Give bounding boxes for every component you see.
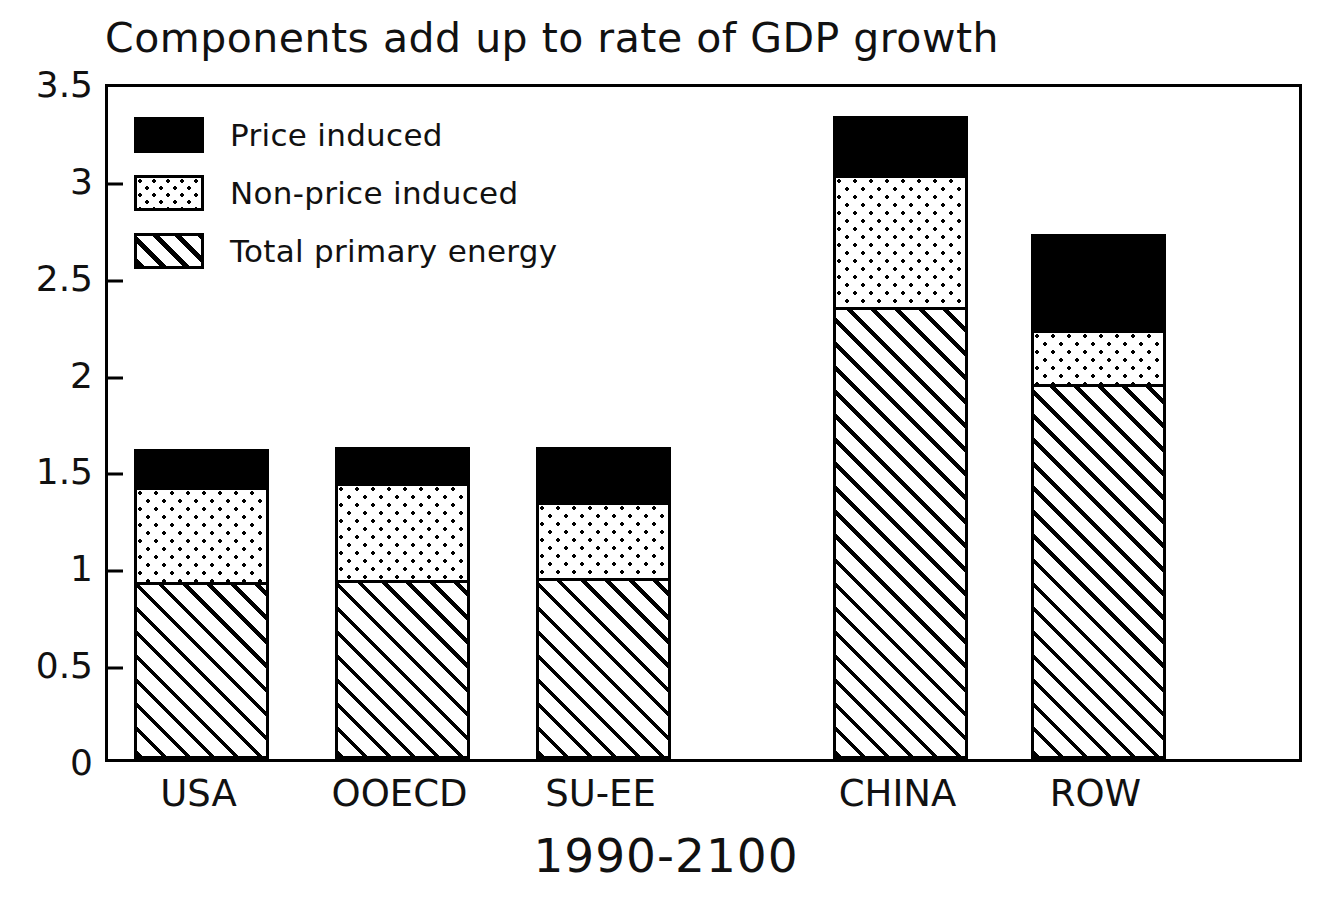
legend-item-total-primary-energy: Total primary energy (134, 229, 557, 273)
hatch-swatch-icon (134, 233, 204, 269)
y-axis-tick-mark (105, 473, 123, 476)
bar-segment-price-induced (134, 449, 269, 490)
y-axis-tick-mark (105, 279, 123, 282)
legend-item-price-induced: Price induced (134, 113, 557, 157)
chart-title: Components add up to rate of GDP growth (105, 14, 1305, 62)
bar-segment-price-induced (1031, 234, 1166, 333)
bar-group-china (833, 81, 968, 759)
y-axis-tick-label: 2.5 (0, 257, 93, 298)
x-axis-tick-label-row: ROW (1050, 772, 1141, 815)
x-axis-title: 1990-2100 (0, 828, 1332, 883)
bar-segment-non-price-induced (536, 505, 671, 581)
chart-figure: Components add up to rate of GDP growth … (0, 0, 1332, 915)
chart-legend: Price induced Non-price induced Total pr… (134, 113, 557, 287)
bar-segment-price-induced (335, 447, 470, 486)
y-axis-tick-label: 3.5 (0, 64, 93, 105)
x-axis-tick-label-ooecd: OOECD (332, 772, 468, 815)
y-axis-tick-label: 2 (0, 354, 93, 395)
bar-segment-non-price-induced (335, 486, 470, 583)
x-axis-tick-label-china: CHINA (839, 772, 957, 815)
y-axis-tick-mark (105, 182, 123, 185)
y-axis-tick-mark (105, 570, 123, 573)
dotted-swatch-icon (134, 175, 204, 211)
bar-segment-total-primary-energy (335, 583, 470, 759)
legend-label: Non-price induced (230, 175, 518, 211)
y-axis-tick-label: 0.5 (0, 645, 93, 686)
x-axis-tick-label-su-ee: SU-EE (545, 772, 656, 815)
y-axis-tick-label: 1 (0, 548, 93, 589)
legend-label: Price induced (230, 117, 443, 153)
bar-segment-non-price-induced (1031, 333, 1166, 387)
bar-segment-total-primary-energy (134, 585, 269, 759)
bar-group-row (1031, 81, 1166, 759)
bar-segment-non-price-induced (833, 178, 968, 310)
bar-segment-total-primary-energy (833, 310, 968, 759)
solid-black-swatch-icon (134, 117, 204, 153)
bar-segment-total-primary-energy (1031, 387, 1166, 759)
y-axis-tick-label: 3 (0, 160, 93, 201)
legend-label: Total primary energy (230, 233, 557, 269)
bar-segment-non-price-induced (134, 490, 269, 585)
y-axis-tick-label: 1.5 (0, 451, 93, 492)
y-axis-tick-label: 0 (0, 742, 93, 783)
bar-segment-price-induced (536, 447, 671, 505)
y-axis-tick-mark (105, 667, 123, 670)
bar-segment-price-induced (833, 116, 968, 178)
plot-frame: Price induced Non-price induced Total pr… (105, 84, 1302, 762)
x-axis-tick-label-usa: USA (160, 772, 237, 815)
legend-item-non-price-induced: Non-price induced (134, 171, 557, 215)
bar-segment-total-primary-energy (536, 581, 671, 759)
y-axis-tick-mark (105, 376, 123, 379)
